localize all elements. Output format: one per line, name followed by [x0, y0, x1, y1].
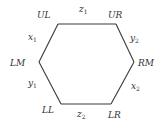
- vertex-label-lr: LR: [107, 110, 121, 120]
- edge-label-z1: z1: [78, 4, 88, 15]
- edge-label-x2: x2: [131, 81, 140, 92]
- edge-upper-right: [116, 24, 134, 62]
- edge-lower-left: [39, 62, 61, 104]
- edge-upper-left: [39, 24, 58, 62]
- edge-label-x1: x1: [28, 32, 37, 43]
- vertex-label-ul: UL: [37, 10, 51, 20]
- vertex-label-lm: LM: [9, 58, 26, 68]
- hexagon-diagram: UL UR RM LR LL LM z1 y2 x2 z2 y1 x1: [0, 0, 164, 128]
- vertex-label-ll: LL: [41, 105, 54, 115]
- vertex-label-ur: UR: [108, 10, 123, 20]
- vertex-label-rm: RM: [137, 58, 155, 68]
- edge-label-z2: z2: [76, 109, 86, 120]
- edge-label-y2: y2: [129, 33, 139, 44]
- edge-label-y1: y1: [27, 78, 37, 89]
